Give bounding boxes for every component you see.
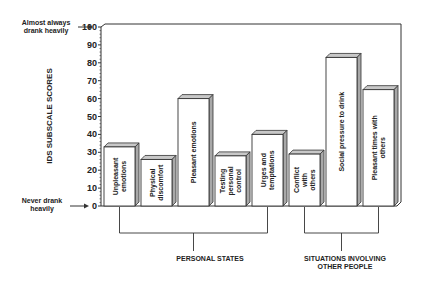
bar-label-line: others [379, 137, 386, 159]
bar-label-line: discomfort [157, 164, 164, 201]
bar-7: Social pressure to drink [326, 53, 361, 206]
bracket-line [120, 207, 268, 233]
bar-top-face [252, 130, 287, 134]
bar-label: Unpleasantemotions [112, 157, 127, 195]
y-tick-label: 60 [87, 94, 97, 104]
bar-1: Unpleasantemotions [104, 143, 139, 206]
bar-top-face [289, 150, 324, 154]
bar-8: Pleasant times withothers [363, 86, 398, 206]
bar-top-face [141, 155, 176, 159]
bar-chart: 0102030405060708090100 Unpleasantemotion… [0, 0, 421, 285]
bar-top-face [326, 53, 361, 57]
bar-side-face [357, 53, 361, 206]
bars: UnpleasantemotionsPhysicaldiscomfortPlea… [104, 53, 398, 206]
bar-side-face [172, 155, 176, 206]
y-axis: 0102030405060708090100 [70, 22, 101, 211]
bar-label: Physicaldiscomfort [149, 164, 164, 201]
y-tick-label: 10 [87, 183, 97, 193]
bar-top-face [363, 86, 398, 90]
group-bracket-1 [120, 207, 268, 251]
bar-label: Testingpersonalcontrol [219, 166, 242, 195]
bar-side-face [283, 130, 287, 206]
bar-label-line: others [309, 169, 316, 191]
bar-label-line: Conflict [293, 166, 300, 193]
y-tick-label: 70 [87, 76, 97, 86]
bar-label-line: Unpleasant [112, 157, 120, 195]
bar-label-line: temptations [268, 150, 276, 190]
y-axis-title: IDS SUBSCALE SCORES [46, 56, 54, 176]
bottom-anchor-label: Never drank heavily [12, 197, 72, 213]
bar-side-face [209, 95, 213, 206]
y-tick-label: 90 [87, 40, 97, 50]
bar-label-line: Pleasant emotions [190, 121, 197, 183]
bar-side-face [246, 152, 250, 206]
bar-top-face [215, 152, 250, 156]
bar-2: Physicaldiscomfort [141, 155, 176, 206]
y-tick-label: 0 [92, 201, 97, 211]
y-tick-label: 40 [87, 129, 97, 139]
bar-side-face [320, 150, 324, 206]
bar-3: Pleasant emotions [178, 95, 213, 206]
arrow-head-icon [84, 204, 89, 209]
y-tick-label: 20 [87, 165, 97, 175]
bar-label: Pleasant emotions [190, 121, 197, 183]
bar-label-line: Urges and [260, 153, 268, 187]
bar-top-face [104, 143, 139, 147]
bar-label-line: Physical [149, 168, 157, 196]
group-brackets [120, 207, 379, 251]
y-tick-label: 50 [87, 112, 97, 122]
group-label-personal-states: PERSONAL STATES [150, 255, 270, 263]
bar-label-line: emotions [120, 161, 127, 192]
bracket-line [305, 207, 379, 233]
bar-label: Urges andtemptations [260, 150, 276, 190]
bar-6: Conflictwithothers [289, 150, 324, 206]
top-anchor-label: Almost always drank heavily [8, 19, 84, 35]
group-bracket-2 [305, 207, 379, 251]
y-tick-label: 80 [87, 58, 97, 68]
bar-label-line: control [235, 169, 242, 193]
group-label-situations: SITUATIONS INVOLVING OTHER PEOPLE [290, 255, 400, 271]
bar-side-face [135, 143, 139, 206]
bar-label-line: Social pressure to drink [338, 92, 346, 172]
bar-label-line: Testing [219, 169, 227, 193]
bar-top-face [178, 95, 213, 99]
bar-label-line: with [301, 173, 308, 188]
y-tick-label: 30 [87, 147, 97, 157]
bar-label: Social pressure to drink [338, 92, 346, 172]
bar-side-face [394, 86, 398, 206]
bar-4: Testingpersonalcontrol [215, 152, 250, 206]
bar-label-line: personal [227, 166, 235, 195]
bar-label-line: Pleasant times with [371, 115, 378, 180]
bar-5: Urges andtemptations [252, 130, 287, 206]
